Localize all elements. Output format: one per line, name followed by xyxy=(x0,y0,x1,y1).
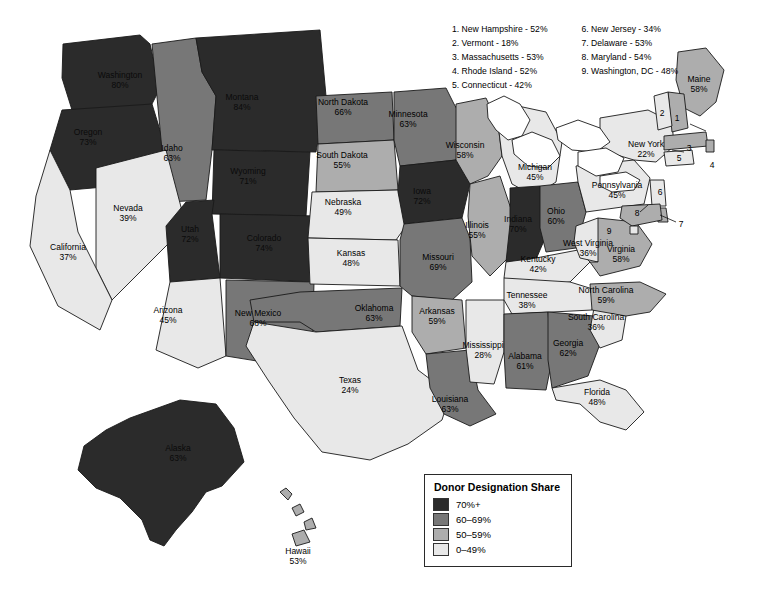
callout-number: 8 xyxy=(635,208,640,218)
legend-label: 60–69% xyxy=(456,514,491,525)
state-washington-dc[interactable] xyxy=(630,226,638,234)
northeast-list-column-2: 6. New Jersey - 34%7. Delaware - 53%8. M… xyxy=(582,22,679,92)
northeast-list-item: 1. New Hampshire - 52% xyxy=(452,22,548,36)
legend-swatch xyxy=(433,498,449,511)
legend-label: 50–59% xyxy=(456,529,491,540)
callout-number: 9 xyxy=(607,226,612,236)
state-alabama[interactable] xyxy=(504,312,552,390)
state-rhode-island[interactable] xyxy=(706,140,714,152)
state-nebraska[interactable] xyxy=(308,190,406,240)
state-missouri[interactable] xyxy=(400,218,472,300)
northeast-list-item: 9. Washington, DC - 48% xyxy=(582,64,679,78)
state-hawaii[interactable] xyxy=(280,488,316,546)
state-arkansas[interactable] xyxy=(412,296,466,354)
legend-label: 70%+ xyxy=(456,499,481,510)
state-wyoming[interactable] xyxy=(212,150,310,216)
callout-number: 3 xyxy=(687,143,692,153)
northeast-list-item: 8. Maryland - 54% xyxy=(582,50,679,64)
state-mississippi[interactable] xyxy=(466,300,504,384)
northeast-list-item: 2. Vermont - 18% xyxy=(452,36,548,50)
northeast-list-column-1: 1. New Hampshire - 52%2. Vermont - 18%3.… xyxy=(452,22,548,92)
state-washington[interactable] xyxy=(62,35,160,112)
callout-number: 1 xyxy=(675,113,680,123)
legend-item: 60–69% xyxy=(433,513,563,526)
map-legend: Donor Designation Share 70%+60–69%50–59%… xyxy=(424,474,572,567)
state-kansas[interactable] xyxy=(308,238,400,286)
legend-item: 70%+ xyxy=(433,498,563,511)
legend-rows: 70%+60–69%50–59%0–49% xyxy=(433,498,563,556)
northeast-list-item: 6. New Jersey - 34% xyxy=(582,22,679,36)
legend-item: 50–59% xyxy=(433,528,563,541)
state-florida[interactable] xyxy=(552,380,644,430)
state-tennessee[interactable] xyxy=(504,278,596,314)
legend-swatch xyxy=(433,543,449,556)
northeast-list-item: 3. Massachusetts - 53% xyxy=(452,50,548,64)
state-alaska[interactable] xyxy=(78,400,244,546)
state-illinois[interactable] xyxy=(468,176,512,276)
northeast-reference-list: 1. New Hampshire - 52%2. Vermont - 18%3.… xyxy=(452,22,678,92)
state-north-carolina[interactable] xyxy=(590,282,666,316)
state-arizona[interactable] xyxy=(156,278,226,368)
state-south-dakota[interactable] xyxy=(316,140,398,192)
state-colorado[interactable] xyxy=(220,214,318,282)
legend-swatch xyxy=(433,528,449,541)
state-iowa[interactable] xyxy=(398,160,470,224)
state-montana[interactable] xyxy=(196,30,326,152)
northeast-list-item: 7. Delaware - 53% xyxy=(582,36,679,50)
legend-label: 0–49% xyxy=(456,544,486,555)
legend-title: Donor Designation Share xyxy=(434,481,563,493)
legend-item: 0–49% xyxy=(433,543,563,556)
callout-number: 6 xyxy=(658,187,663,197)
callout-number: 4 xyxy=(710,160,715,170)
northeast-list-item: 5. Connecticut - 42% xyxy=(452,78,548,92)
state-north-dakota[interactable] xyxy=(316,92,394,144)
northeast-list-item: 4. Rhode Island - 52% xyxy=(452,64,548,78)
callout-number: 5 xyxy=(677,153,682,163)
us-choropleth-map: 1. New Hampshire - 52%2. Vermont - 18%3.… xyxy=(0,0,761,610)
legend-swatch xyxy=(433,513,449,526)
state-virginia[interactable] xyxy=(590,218,652,276)
state-maryland[interactable] xyxy=(620,204,662,226)
callout-number: 2 xyxy=(660,108,665,118)
callout-number: 7 xyxy=(679,219,684,229)
